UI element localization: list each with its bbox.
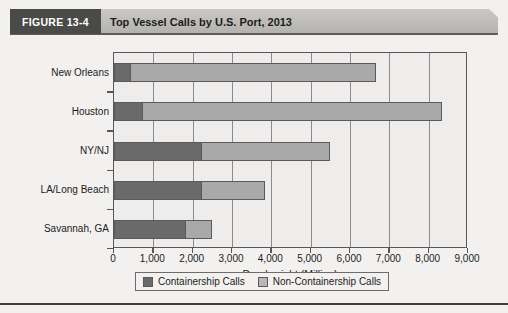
x-axis-tick-label: 1,000 (140, 253, 165, 264)
bar-row[interactable] (114, 63, 376, 82)
x-axis-tick-label: 7,000 (376, 253, 401, 264)
legend-item[interactable]: Containership Calls (143, 276, 245, 287)
bar-row[interactable] (114, 220, 212, 239)
y-axis-label-houston: Houston (1, 105, 109, 116)
bar-segment-containership[interactable] (114, 220, 185, 239)
bar-row[interactable] (114, 142, 330, 161)
figure-number-label: FIGURE 13-4 (22, 16, 89, 28)
bar-segment-non-containership[interactable] (130, 63, 376, 82)
bar-segment-containership[interactable] (114, 63, 130, 82)
y-axis-label-new-orleans: New Orleans (1, 66, 109, 77)
x-axis-tick-label: 8,000 (415, 253, 440, 264)
bar-segment-containership[interactable] (114, 142, 201, 161)
bar-segment-non-containership[interactable] (201, 142, 331, 161)
x-axis-tick-label: 3,000 (218, 253, 243, 264)
x-axis-tick-label: 4,000 (258, 253, 283, 264)
y-axis-label-ny-nj: NY/NJ (1, 145, 109, 156)
x-axis-tick-label: 0 (110, 253, 116, 264)
bar-row[interactable] (114, 181, 265, 200)
bar-segment-containership[interactable] (114, 102, 142, 121)
figure-number-box: FIGURE 13-4 (10, 9, 101, 34)
figure-title: Top Vessel Calls by U.S. Port, 2013 (110, 9, 292, 34)
gridline (350, 53, 351, 247)
y-axis-label-savannah-ga: Savannah, GA (1, 223, 109, 234)
legend-item[interactable]: Non-Containership Calls (258, 276, 381, 287)
gridline (429, 53, 430, 247)
bar-row[interactable] (114, 102, 442, 121)
legend-swatch-dark (143, 277, 153, 287)
chart-canvas: New OrleansHoustonNY/NJLA/Long BeachSava… (0, 36, 508, 296)
bar-segment-non-containership[interactable] (185, 220, 213, 239)
x-axis-tick-label: 6,000 (336, 253, 361, 264)
x-axis-tick-label: 5,000 (297, 253, 322, 264)
gridline (389, 53, 390, 247)
plot-area (113, 52, 467, 248)
y-axis-category-labels: New OrleansHoustonNY/NJLA/Long BeachSava… (0, 36, 109, 296)
legend-label: Containership Calls (158, 276, 245, 287)
bar-segment-containership[interactable] (114, 181, 201, 200)
legend-swatch-light (258, 277, 268, 287)
x-axis-tick-label: 9,000 (454, 253, 479, 264)
y-axis-label-la-long-beach: LA/Long Beach (1, 184, 109, 195)
legend-label: Non-Containership Calls (273, 276, 381, 287)
chart-legend: Containership CallsNon-Containership Cal… (135, 272, 389, 291)
x-axis-tick-label: 2,000 (179, 253, 204, 264)
figure-container: FIGURE 13-4 Top Vessel Calls by U.S. Por… (0, 0, 508, 313)
bar-segment-non-containership[interactable] (142, 102, 442, 121)
bar-segment-non-containership[interactable] (201, 181, 266, 200)
figure-bottom-rule (0, 303, 508, 305)
